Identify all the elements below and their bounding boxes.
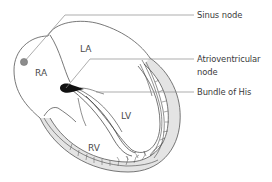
callout-sinus-node: Sinus node [197,10,242,20]
callout-av-node-line2: node [197,67,218,77]
bundle-branch-left [74,89,136,153]
label-right-ventricle: RV [88,143,100,153]
callout-bundle-of-his: Bundle of His [197,87,251,97]
left-ventricle-cavity [86,66,160,152]
sinus-node-leader-line [24,15,194,62]
label-left-ventricle: LV [121,111,131,121]
av-node [60,84,84,93]
left-atrium-outline [48,21,150,58]
label-left-atrium: LA [80,44,91,54]
bundle-branch-right [72,90,132,156]
av-node-leader-line [66,59,194,88]
callout-av-node-line1: Atrioventricular [197,54,260,64]
label-right-atrium: RA [35,68,47,78]
moderator-fiber [78,98,86,126]
interatrial-septum [50,35,70,82]
